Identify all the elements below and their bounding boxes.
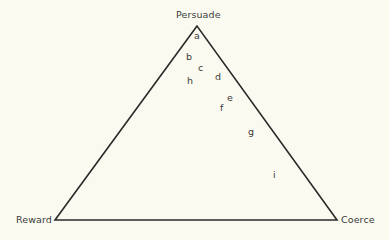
point-f: f <box>220 103 223 113</box>
vertex-label-coerce: Coerce <box>341 215 375 225</box>
point-e: e <box>227 93 233 103</box>
point-g: g <box>248 127 254 137</box>
point-h: h <box>187 76 193 86</box>
point-i: i <box>273 170 276 180</box>
point-a: a <box>194 31 200 41</box>
triangle-diagram: Persuade Reward Coerce a b c d e f g h i <box>0 0 389 240</box>
vertex-label-reward: Reward <box>16 215 52 225</box>
point-c: c <box>198 63 203 73</box>
point-b: b <box>186 52 192 62</box>
point-d: d <box>215 72 221 82</box>
vertex-label-persuade: Persuade <box>176 10 221 20</box>
